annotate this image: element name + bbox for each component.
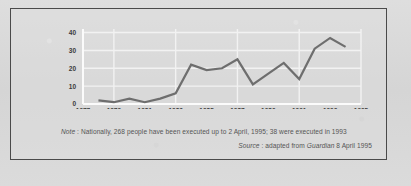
x-tick-label: 1983 <box>168 107 183 109</box>
y-tick-label: 30 <box>69 47 77 54</box>
x-tick-label: 1991 <box>292 107 307 109</box>
source-row: Source : adapted from Guardian 8 April 1… <box>25 141 376 151</box>
source-text-post: 8 April 1995 <box>334 142 372 149</box>
y-tick-label: 20 <box>69 65 77 72</box>
source-label: Source <box>238 142 259 149</box>
x-tick-label: 1981 <box>138 107 153 109</box>
data-series-executions <box>98 38 345 102</box>
notes-block: Note : Nationally, 268 people have been … <box>25 127 376 151</box>
source-publication: Guardian <box>307 142 335 149</box>
x-tick-labels: 1977197919811983198519871989199119931995 <box>76 107 369 109</box>
note-label: Note <box>61 128 75 135</box>
y-tick-labels: 010203040 <box>69 29 77 107</box>
line-chart: 010203040 197719791981198319851987198919… <box>11 9 388 109</box>
x-tick-label: 1989 <box>261 107 276 109</box>
note-row: Note : Nationally, 268 people have been … <box>25 127 376 137</box>
x-tick-label: 1979 <box>107 107 122 109</box>
x-tick-label: 1987 <box>230 107 245 109</box>
source-text-pre: adapted from <box>265 142 307 149</box>
y-tick-label: 40 <box>69 29 77 36</box>
x-tick-label: 1993 <box>323 107 338 109</box>
x-tick-label: 1985 <box>199 107 214 109</box>
series-line <box>98 38 345 102</box>
note-text: Nationally, 268 people have been execute… <box>81 128 347 135</box>
y-tick-label: 10 <box>69 83 77 90</box>
x-tick-label: 1995 <box>354 107 369 109</box>
chart-canvas: 010203040 197719791981198319851987198919… <box>11 9 388 109</box>
x-tick-label: 1977 <box>76 107 91 109</box>
grid-lines <box>83 29 361 104</box>
figure-frame: 010203040 197719791981198319851987198919… <box>10 8 387 160</box>
